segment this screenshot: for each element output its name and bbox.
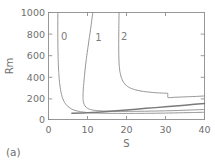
curve-label-0: 0 — [61, 31, 67, 42]
curve-branch-0 — [58, 13, 205, 114]
y-tick-label-600: 600 — [27, 50, 45, 61]
y-tickmarks-right — [201, 34, 205, 99]
x-tick-label-20: 20 — [120, 124, 132, 135]
curve-label-2: 2 — [121, 31, 127, 42]
y-tick-label-1000: 1000 — [21, 7, 45, 18]
y-tickmarks — [49, 13, 53, 120]
x-tick-label-40: 40 — [198, 124, 210, 135]
y-tick-label-800: 800 — [27, 29, 45, 40]
x-axis-title: S — [123, 138, 129, 149]
curves-group — [58, 13, 205, 114]
x-tick-label-0: 0 — [45, 124, 51, 135]
y-tick-label-0: 0 — [39, 114, 45, 125]
curve-envelope — [72, 103, 205, 113]
x-tick-label-30: 30 — [159, 124, 171, 135]
chart-canvas: 1000 800 600 400 200 0 0 10 20 30 40 S R… — [0, 0, 215, 162]
x-tick-label-10: 10 — [81, 124, 93, 135]
y-axis-title: Rm — [4, 58, 15, 75]
curve-branch-2 — [119, 13, 205, 98]
plot-frame — [49, 13, 205, 120]
panel-label: (a) — [6, 146, 21, 158]
curve-label-1: 1 — [95, 32, 101, 43]
y-tick-label-200: 200 — [27, 93, 45, 104]
x-tickmarks — [49, 116, 205, 120]
y-tick-label-400: 400 — [27, 72, 45, 83]
x-tickmarks-top — [88, 13, 166, 17]
figure-panel-a: 1000 800 600 400 200 0 0 10 20 30 40 S R… — [0, 0, 215, 162]
